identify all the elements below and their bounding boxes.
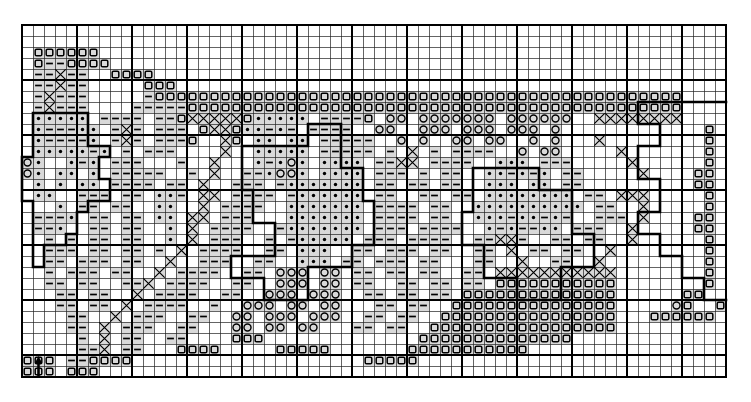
chart-canvas: [0, 0, 751, 402]
filled-dot-symbol: [345, 238, 348, 241]
filled-dot-symbol: [521, 194, 524, 197]
filled-dot-symbol: [59, 172, 62, 175]
filled-dot-symbol: [92, 172, 95, 175]
filled-dot-symbol: [301, 139, 304, 142]
filled-dot-symbol: [70, 216, 73, 219]
filled-dot-symbol: [510, 194, 513, 197]
filled-dot-symbol: [169, 227, 172, 230]
filled-dot-symbol: [158, 216, 161, 219]
filled-dot-symbol: [565, 194, 568, 197]
filled-dot-symbol: [257, 117, 260, 120]
filled-dot-symbol: [312, 194, 315, 197]
filled-dot-symbol: [532, 194, 535, 197]
filled-dot-symbol: [301, 172, 304, 175]
filled-dot-symbol: [323, 249, 326, 252]
filled-dot-symbol: [268, 150, 271, 153]
filled-dot-symbol: [268, 117, 271, 120]
filled-dot-symbol: [92, 128, 95, 131]
filled-dot-symbol: [510, 205, 513, 208]
filled-dot-symbol: [312, 260, 315, 263]
filled-dot-symbol: [543, 194, 546, 197]
filled-dot-symbol: [554, 227, 557, 230]
filled-dot-symbol: [70, 172, 73, 175]
filled-dot-symbol: [510, 227, 513, 230]
filled-dot-symbol: [81, 117, 84, 120]
filled-dot-symbol: [279, 128, 282, 131]
filled-dot-symbol: [312, 205, 315, 208]
filled-dot-symbol: [532, 205, 535, 208]
filled-dot-symbol: [48, 150, 51, 153]
filled-dot-symbol: [499, 172, 502, 175]
filled-dot-symbol: [37, 183, 40, 186]
filled-dot-symbol: [521, 205, 524, 208]
filled-dot-symbol: [103, 150, 106, 153]
filled-dot-symbol: [37, 194, 40, 197]
filled-dot-symbol: [488, 183, 491, 186]
filled-dot-symbol: [290, 117, 293, 120]
filled-dot-symbol: [499, 216, 502, 219]
filled-dot-symbol: [554, 205, 557, 208]
filled-dot-symbol: [543, 205, 546, 208]
filled-dot-symbol: [543, 183, 546, 186]
filled-dot-symbol: [48, 194, 51, 197]
filled-dot-symbol: [158, 194, 161, 197]
filled-dot-symbol: [477, 205, 480, 208]
filled-dot-symbol: [279, 161, 282, 164]
filled-dot-symbol: [356, 194, 359, 197]
filled-dot-symbol: [323, 227, 326, 230]
filled-dot-symbol: [345, 216, 348, 219]
filled-dot-symbol: [70, 117, 73, 120]
filled-dot-symbol: [334, 238, 337, 241]
filled-dot-symbol: [334, 161, 337, 164]
filled-dot-symbol: [499, 183, 502, 186]
filled-dot-symbol: [59, 183, 62, 186]
filled-dot-symbol: [169, 238, 172, 241]
filled-dot-symbol: [290, 216, 293, 219]
filled-dot-symbol: [301, 194, 304, 197]
filled-dot-symbol: [48, 117, 51, 120]
filled-dot-symbol: [59, 150, 62, 153]
filled-dot-symbol: [290, 205, 293, 208]
filled-dot-symbol: [312, 216, 315, 219]
filled-dot-symbol: [301, 161, 304, 164]
filled-dot-symbol: [521, 161, 524, 164]
filled-dot-symbol: [290, 183, 293, 186]
filled-dot-symbol: [257, 161, 260, 164]
filled-dot-symbol: [312, 183, 315, 186]
filled-dot-symbol: [543, 227, 546, 230]
filled-dot-symbol: [532, 216, 535, 219]
filled-dot-symbol: [356, 227, 359, 230]
filled-dot-symbol: [37, 150, 40, 153]
filled-dot-symbol: [81, 183, 84, 186]
filled-dot-symbol: [345, 205, 348, 208]
filled-dot-symbol: [70, 150, 73, 153]
filled-dot-symbol: [554, 216, 557, 219]
filled-dot-symbol: [301, 117, 304, 120]
filled-dot-symbol: [312, 249, 315, 252]
gridded-symbol-chart: [0, 0, 751, 402]
filled-dot-symbol: [488, 205, 491, 208]
filled-dot-symbol: [323, 183, 326, 186]
filled-dot-symbol: [301, 249, 304, 252]
filled-dot-symbol: [301, 183, 304, 186]
filled-dot-symbol: [323, 194, 326, 197]
filled-dot-symbol: [301, 150, 304, 153]
filled-dot-symbol: [356, 205, 359, 208]
filled-dot-symbol: [323, 205, 326, 208]
filled-dot-symbol: [345, 183, 348, 186]
filled-dot-symbol: [37, 139, 40, 142]
filled-dot-symbol: [169, 205, 172, 208]
filled-dot-symbol: [290, 227, 293, 230]
filled-dot-symbol: [257, 150, 260, 153]
filled-dot-symbol: [169, 216, 172, 219]
filled-dot-symbol: [92, 139, 95, 142]
filled-dot-symbol: [301, 205, 304, 208]
filled-dot-symbol: [345, 161, 348, 164]
filled-dot-symbol: [521, 216, 524, 219]
filled-dot-symbol: [323, 161, 326, 164]
filled-dot-symbol: [334, 194, 337, 197]
filled-dot-symbol: [356, 161, 359, 164]
filled-dot-symbol: [543, 172, 546, 175]
filled-dot-symbol: [92, 161, 95, 164]
filled-dot-symbol: [334, 216, 337, 219]
